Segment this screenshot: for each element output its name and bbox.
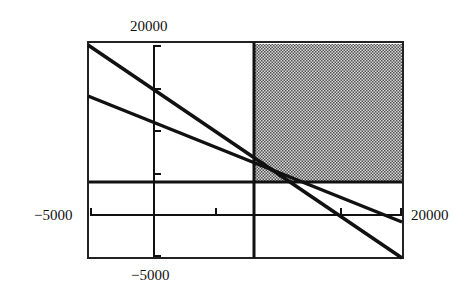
x-min-label: −5000 — [34, 207, 72, 223]
x-axis — [90, 208, 402, 215]
chart-canvas — [0, 0, 476, 302]
y-axis — [154, 45, 161, 257]
y-max-label: 20000 — [130, 18, 168, 34]
y-min-label: −5000 — [131, 267, 169, 283]
shaded-region — [254, 44, 402, 182]
x-max-label: 20000 — [411, 207, 449, 223]
